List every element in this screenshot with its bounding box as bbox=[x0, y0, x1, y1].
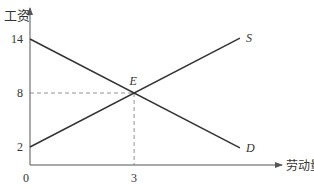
x-axis-label: 劳动量 bbox=[286, 159, 314, 173]
equilibrium-label: E bbox=[128, 74, 137, 88]
y-axis-label: 工资 bbox=[4, 8, 30, 23]
x-tick-label: 3 bbox=[131, 171, 137, 185]
y-tick-label: 14 bbox=[11, 32, 23, 46]
chart: 工资劳动量014823ESD bbox=[0, 0, 314, 189]
series-label-d: D bbox=[245, 141, 255, 155]
origin-label: 0 bbox=[23, 171, 29, 185]
series-label-s: S bbox=[246, 31, 252, 45]
y-tick-label: 2 bbox=[17, 140, 23, 154]
series-line-d bbox=[30, 39, 240, 148]
y-tick-label: 8 bbox=[17, 86, 23, 100]
series-line-s bbox=[30, 38, 240, 147]
